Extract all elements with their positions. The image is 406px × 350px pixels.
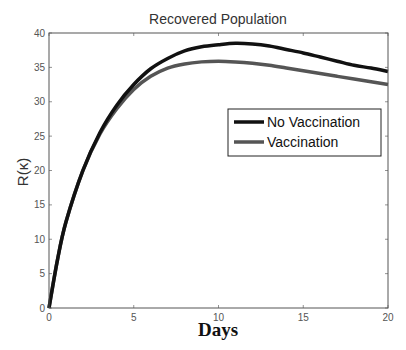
x-tick-label: 5 [131,312,137,323]
x-tick-label: 15 [298,312,310,323]
y-tick-label: 30 [34,96,46,107]
y-axis-ticks: 0510152025303540 [34,28,388,314]
line-chart: Recovered Population 0510152025303540 05… [0,0,406,350]
legend: No Vaccination Vaccination [228,109,381,156]
y-tick-label: 40 [34,28,46,39]
y-tick-label: 15 [34,199,46,210]
legend-label-no-vaccination: No Vaccination [267,114,360,130]
y-axis-label: R(κ) [14,158,31,186]
series-line-no-vaccination [49,43,388,308]
chart-title: Recovered Population [149,11,287,27]
x-tick-label: 0 [46,312,52,323]
legend-label-vaccination: Vaccination [267,134,338,150]
series-line-vaccination [49,61,388,308]
x-axis-label: Days [198,319,238,340]
y-tick-label: 25 [34,131,46,142]
y-tick-label: 35 [34,62,46,73]
y-tick-label: 10 [34,234,46,245]
y-tick-label: 5 [39,268,45,279]
y-tick-label: 20 [34,165,46,176]
x-tick-label: 20 [382,312,394,323]
plot-lines [49,43,388,308]
y-tick-label: 0 [39,303,45,314]
plot-area-frame [49,33,388,308]
